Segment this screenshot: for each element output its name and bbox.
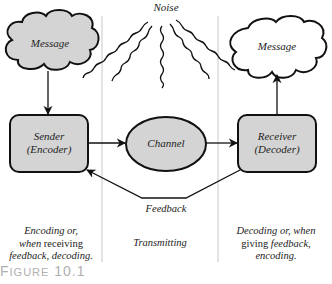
- sender-subtitle: (Encoder): [10, 143, 88, 156]
- feedback-label: Feedback: [126, 203, 206, 214]
- sender-label: Sender (Encoder): [10, 130, 88, 156]
- right-caption-line1: Decoding or, when: [220, 225, 332, 238]
- receiver-subtitle: (Decoder): [238, 143, 316, 156]
- sender-title: Sender: [10, 130, 88, 143]
- middle-column-caption: Transmitting: [104, 237, 216, 250]
- left-caption-line1: Encoding or,: [2, 225, 100, 238]
- right-caption-line3: encoding.: [220, 250, 332, 263]
- receiver-title: Receiver: [238, 130, 316, 143]
- noise-squiggles: [83, 20, 235, 88]
- right-caption-line2: giving feedback,: [220, 238, 332, 251]
- right-column-caption: Decoding or, when giving feedback, encod…: [220, 225, 332, 263]
- receiver-label: Receiver (Decoder): [238, 130, 316, 156]
- left-column-caption: Encoding or, when receiving feedback, de…: [2, 225, 100, 263]
- figure-caption: FIGURE 10.1: [0, 263, 86, 279]
- feedback-arrow: [87, 170, 240, 198]
- left-caption-line2: when receiving: [2, 238, 100, 251]
- receiver-message-label: Message: [234, 40, 320, 53]
- sender-message-label: Message: [8, 37, 92, 50]
- noise-label: Noise: [140, 1, 192, 13]
- left-caption-line3: feedback, decoding.: [2, 250, 100, 263]
- channel-label: Channel: [126, 137, 206, 150]
